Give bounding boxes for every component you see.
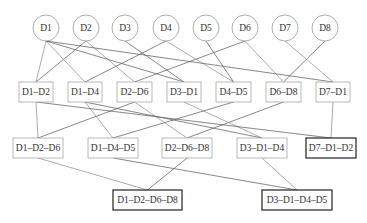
leaf-node-D5: D5 <box>193 15 219 41</box>
edge-D2-D6-D8-to-D1-D2-D6-D8 <box>148 158 188 190</box>
combination-label: D6–D8 <box>270 87 298 97</box>
leaf-node-D1: D1 <box>33 15 59 41</box>
combination-label: D3–D1–D4–D5 <box>267 195 328 205</box>
combination-label: D1–D4 <box>71 87 99 97</box>
leaf-node-D4: D4 <box>153 15 179 41</box>
combination-node-D3-D1: D3–D1 <box>167 82 201 102</box>
edge-D4-to-D1-D4 <box>85 41 166 82</box>
leaf-node-label: D6 <box>239 23 251 33</box>
leaf-node-D2: D2 <box>73 15 99 41</box>
leaf-node-label: D8 <box>319 23 331 33</box>
leaf-node-D7: D7 <box>272 15 298 41</box>
combination-label: D7–D1–D2 <box>309 143 354 153</box>
combination-node-D3-D1-D4-D5: D3–D1–D4–D5 <box>262 190 332 210</box>
edge-D4-to-D4-D5 <box>166 41 234 82</box>
nodes: D1D2D3D4D5D6D7D8D1–D2D1–D4D2–D6D3–D1D4–D… <box>13 15 356 210</box>
combination-label: D7–D1 <box>319 87 347 97</box>
combination-node-D2-D6-D8: D2–D6–D8 <box>162 138 212 158</box>
combination-node-D4-D5: D4–D5 <box>216 82 251 102</box>
combination-node-D3-D1-D4: D3–D1–D4 <box>237 138 287 158</box>
leaf-node-D6: D6 <box>232 15 258 41</box>
combination-node-D1-D4-D5: D1–D4–D5 <box>88 138 138 158</box>
edge-D6-to-D6-D8 <box>245 41 284 82</box>
combination-node-D1-D2: D1–D2 <box>19 82 53 102</box>
edge-D1-D4-D5-to-D3-D1-D4-D5 <box>113 158 297 190</box>
combination-label: D1–D2–D6–D8 <box>117 195 178 205</box>
combination-node-D2-D6: D2–D6 <box>117 82 152 102</box>
combination-node-D1-D4: D1–D4 <box>68 82 102 102</box>
edge-D1-D2-to-D1-D2-D6 <box>36 102 38 138</box>
leaf-node-label: D7 <box>279 23 291 33</box>
edge-D1-D2-to-D7-D1-D2 <box>36 102 331 138</box>
leaf-node-label: D1 <box>40 23 52 33</box>
leaf-node-label: D2 <box>80 23 92 33</box>
edge-D1-to-D7-D1 <box>46 41 333 82</box>
combination-label: D2–D6–D8 <box>165 143 210 153</box>
edge-D2-to-D1-D2 <box>36 41 86 82</box>
edge-D2-to-D2-D6 <box>86 41 135 82</box>
combination-label: D1–D2–D6 <box>16 143 61 153</box>
leaf-node-label: D3 <box>119 23 131 33</box>
combination-node-D1-D2-D6: D1–D2–D6 <box>13 138 63 158</box>
leaf-node-D3: D3 <box>112 15 138 41</box>
edge-D1-to-D1-D2 <box>36 41 46 82</box>
combination-label: D1–D4–D5 <box>91 143 136 153</box>
edge-D2-D6-to-D1-D2-D6 <box>38 102 135 138</box>
combination-label: D4–D5 <box>220 87 248 97</box>
combination-label: D3–D1 <box>170 87 198 97</box>
leaf-node-label: D4 <box>160 23 172 33</box>
edge-D1-D2-D6-to-D1-D2-D6-D8 <box>38 158 148 190</box>
edge-D3-D1-to-D3-D1-D4 <box>184 102 262 138</box>
leaf-node-D8: D8 <box>312 15 338 41</box>
leaf-node-label: D5 <box>200 23 212 33</box>
combination-label: D2–D6 <box>121 87 149 97</box>
dataset-combination-lattice-diagram: D1D2D3D4D5D6D7D8D1–D2D1–D4D2–D6D3–D1D4–D… <box>0 0 367 223</box>
edge-D2-D6-to-D2-D6-D8 <box>135 102 188 138</box>
edges <box>36 41 333 190</box>
edge-D1-to-D3-D1 <box>46 41 184 82</box>
combination-node-D7-D1: D7–D1 <box>316 82 350 102</box>
combination-node-D6-D8: D6–D8 <box>266 82 301 102</box>
combination-label: D3–D1–D4 <box>240 143 285 153</box>
combination-node-D7-D1-D2: D7–D1–D2 <box>306 138 356 158</box>
edge-D7-D1-to-D7-D1-D2 <box>331 102 333 138</box>
combination-node-D1-D2-D6-D8: D1–D2–D6–D8 <box>113 190 182 210</box>
combination-label: D1–D2 <box>22 87 50 97</box>
edge-D3-D1-D4-to-D3-D1-D4-D5 <box>262 158 297 190</box>
edge-D1-D4-to-D1-D4-D5 <box>85 102 113 138</box>
